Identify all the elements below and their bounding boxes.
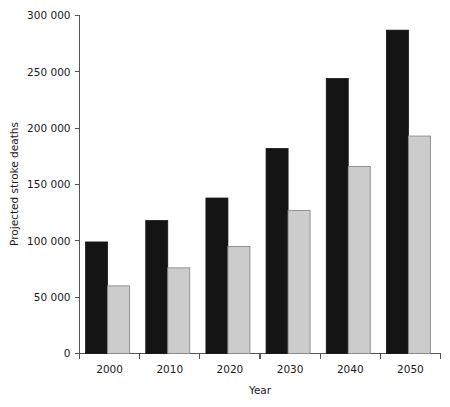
x-axis-tick-label: 2040 — [337, 363, 364, 375]
y-axis-tick-label: 100 000 — [27, 235, 70, 247]
bar-series-dark-2000 — [86, 242, 108, 354]
bar-series-light-2000 — [108, 286, 130, 354]
bar-chart: 050 000100 000150 000200 000250 000300 0… — [0, 0, 450, 407]
x-axis-tick-label: 2030 — [277, 363, 304, 375]
x-axis-tick-label: 2050 — [397, 363, 424, 375]
bar-series-light-2050 — [408, 136, 430, 353]
y-axis-tick-label: 300 000 — [27, 9, 70, 21]
bar-series-light-2030 — [288, 210, 310, 353]
bar-series-dark-2030 — [266, 148, 288, 353]
y-axis-tick-label: 0 — [64, 347, 71, 359]
y-axis-tick-label: 150 000 — [27, 178, 70, 190]
bar-series-light-2010 — [168, 268, 190, 354]
chart-container: 050 000100 000150 000200 000250 000300 0… — [0, 0, 450, 407]
bar-series-dark-2020 — [206, 198, 228, 353]
bar-series-dark-2050 — [386, 30, 408, 353]
y-axis-tick-label: 50 000 — [34, 291, 71, 303]
bar-series-dark-2010 — [146, 221, 168, 354]
bar-series-light-2020 — [228, 246, 250, 353]
x-axis-tick-label: 2010 — [156, 363, 183, 375]
x-axis-title: Year — [248, 384, 272, 396]
x-axis-tick-label: 2000 — [96, 363, 123, 375]
y-axis-title: Projected stroke deaths — [8, 122, 20, 246]
bar-series-dark-2040 — [326, 79, 348, 354]
x-axis-tick-label: 2020 — [217, 363, 244, 375]
bar-series-light-2040 — [348, 166, 370, 353]
bars-layer — [86, 30, 431, 353]
y-axis-tick-label: 250 000 — [27, 66, 70, 78]
x-axis: 200020102020203020402050 — [80, 354, 441, 375]
y-axis-tick-label: 200 000 — [27, 122, 70, 134]
y-axis: 050 000100 000150 000200 000250 000300 0… — [27, 9, 79, 359]
